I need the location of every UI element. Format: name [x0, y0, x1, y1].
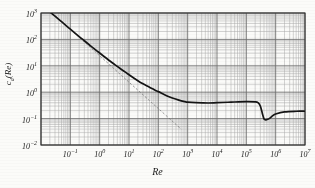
x-tick-label: 106 — [263, 148, 289, 159]
x-tick-label: 102 — [145, 148, 171, 159]
x-tick-label: 105 — [233, 148, 259, 159]
x-axis-label: Re — [0, 166, 315, 177]
x-tick-label: 107 — [292, 148, 315, 159]
x-tick-label: 10−1 — [57, 148, 83, 159]
x-tick-label: 103 — [175, 148, 201, 159]
figure-background — [0, 0, 315, 188]
y-tick-label: 10−1 — [11, 114, 37, 125]
y-tick-label: 10−2 — [11, 140, 37, 151]
x-tick-label: 101 — [116, 148, 142, 159]
x-tick-label: 100 — [87, 148, 113, 159]
y-tick-label: 102 — [11, 34, 37, 45]
x-tick-label: 104 — [204, 148, 230, 159]
y-tick-label: 103 — [11, 8, 37, 19]
drag-coefficient-chart — [0, 0, 315, 188]
y-axis-label: cd(Re) — [3, 51, 15, 97]
